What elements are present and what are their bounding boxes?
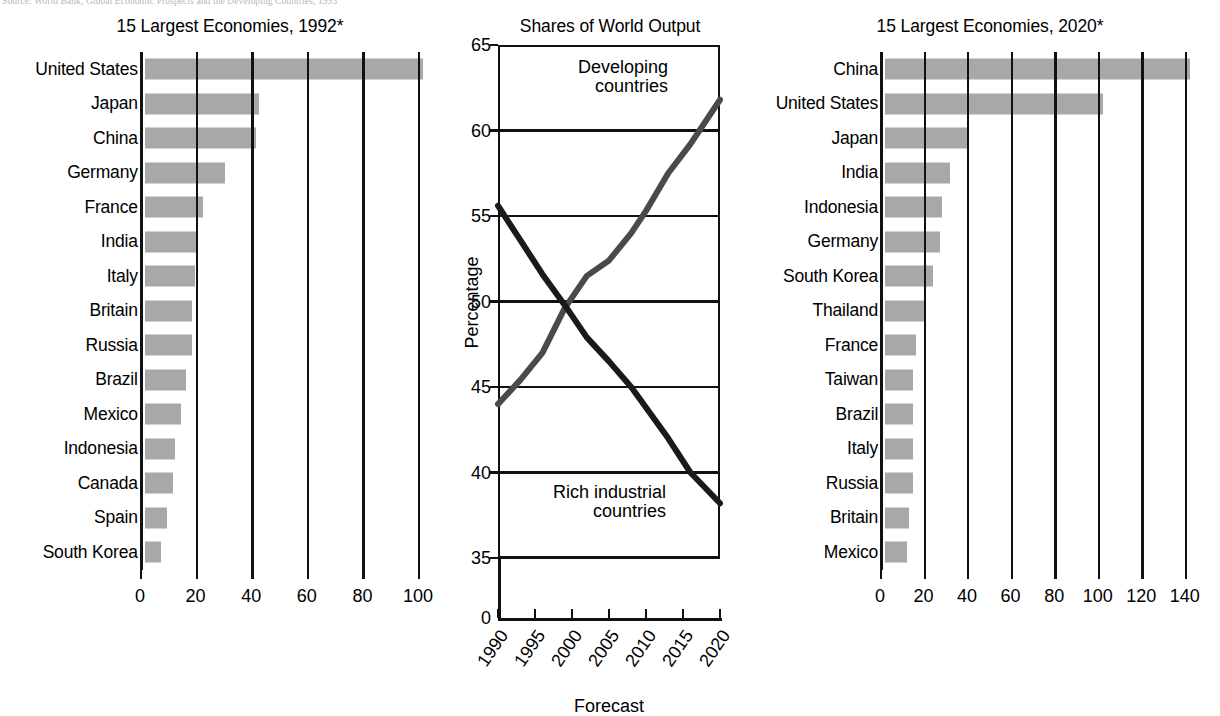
x-tick-label: 20	[914, 586, 934, 607]
y-tick-mark	[490, 129, 498, 131]
bar-row[interactable]: France	[0, 190, 432, 225]
bar-track	[885, 363, 1200, 398]
annotation-line-2: countries	[538, 77, 668, 96]
bar-row[interactable]: Japan	[760, 121, 1200, 156]
annotation-developing-countries: Developingcountries	[538, 58, 668, 97]
bar-row[interactable]: Germany	[760, 225, 1200, 260]
y-tick-mark	[490, 471, 498, 473]
x-tick-label: 100	[403, 586, 433, 607]
bar-row[interactable]: Indonesia	[760, 190, 1200, 225]
bar-fill	[145, 300, 192, 321]
x-gridline	[880, 52, 883, 570]
bar-row[interactable]: China	[760, 52, 1200, 87]
bar-track	[885, 225, 1200, 260]
bar-category-label: China	[760, 61, 885, 79]
bar-row[interactable]: United States	[760, 87, 1200, 122]
y-gridline	[498, 215, 720, 217]
bar-row[interactable]: Italy	[0, 259, 432, 294]
middle-line-chart: 656055504540350Percentage199019952000200…	[460, 0, 760, 683]
bar-category-label: South Korea	[0, 544, 145, 562]
bar-fill	[145, 93, 259, 114]
bar-category-label: Canada	[0, 475, 145, 493]
x-tick-mark	[967, 570, 969, 579]
x-gridline	[1185, 52, 1187, 570]
x-gridline	[924, 52, 926, 570]
y-gridline	[498, 386, 720, 388]
bar-row[interactable]: China	[0, 121, 432, 156]
bar-row[interactable]: South Korea	[760, 259, 1200, 294]
bar-row[interactable]: Britain	[760, 501, 1200, 536]
bar-category-label: Britain	[0, 302, 145, 320]
annotation-rich-industrial-countries: Rich industrialcountries	[516, 483, 666, 522]
x-tick-mark	[497, 609, 500, 618]
bar-track	[885, 190, 1200, 225]
bar-row[interactable]: India	[760, 156, 1200, 191]
bar-fill	[145, 197, 203, 218]
x-gridline	[1054, 52, 1056, 570]
bar-row[interactable]: Spain	[0, 501, 432, 536]
bar-row[interactable]: Canada	[0, 466, 432, 501]
bar-category-label: France	[760, 337, 885, 355]
x-gridline	[362, 52, 364, 570]
x-tick-label: 0	[135, 586, 145, 607]
bar-row[interactable]: Brazil	[0, 363, 432, 398]
bar-row[interactable]: Germany	[0, 156, 432, 191]
bar-track	[885, 466, 1200, 501]
y-tick-mark	[490, 215, 498, 217]
bar-fill	[885, 438, 913, 459]
bar-fill	[145, 438, 176, 459]
bar-fill	[145, 473, 173, 494]
bar-category-label: Russia	[0, 337, 145, 355]
bar-row[interactable]: Indonesia	[0, 432, 432, 467]
bar-row[interactable]: India	[0, 225, 432, 260]
y-gridline	[498, 300, 720, 302]
bar-fill	[145, 59, 423, 80]
y-gridline	[498, 129, 720, 131]
x-gridline	[1141, 52, 1143, 570]
x-axis-line	[498, 618, 722, 621]
right-bar-chart: ChinaUnited StatesJapanIndiaIndonesiaGer…	[760, 52, 1220, 562]
bar-track	[885, 501, 1200, 536]
bar-track	[145, 259, 432, 294]
bar-row[interactable]: Thailand	[760, 294, 1200, 329]
x-tick-label: 20	[186, 586, 206, 607]
x-gridline	[418, 52, 420, 570]
bar-track	[145, 432, 432, 467]
bar-track	[145, 52, 432, 87]
bar-category-label: United States	[0, 61, 145, 79]
bar-category-label: Mexico	[0, 406, 145, 424]
x-tick-mark	[1098, 570, 1100, 579]
bar-row[interactable]: Japan	[0, 87, 432, 122]
bar-track	[145, 294, 432, 329]
x-tick-mark	[1141, 570, 1143, 579]
bar-row[interactable]: Brazil	[760, 397, 1200, 432]
y-tick-label: 60	[471, 120, 491, 141]
bar-row[interactable]: Russia	[760, 466, 1200, 501]
y-gridline	[498, 471, 720, 473]
left-chart-title: 15 Largest Economies, 1992*	[0, 16, 460, 37]
bar-fill	[885, 404, 913, 425]
bar-row[interactable]: Britain	[0, 294, 432, 329]
bar-track	[145, 225, 432, 260]
y-gridline	[498, 557, 720, 559]
bar-row[interactable]: Taiwan	[760, 363, 1200, 398]
bar-row[interactable]: Russia	[0, 328, 432, 363]
bar-row[interactable]: South Korea	[0, 535, 432, 570]
x-tick-label: 40	[241, 586, 261, 607]
bar-category-label: Japan	[0, 95, 145, 113]
x-tick-mark	[196, 570, 198, 579]
bar-category-label: India	[0, 233, 145, 251]
bar-track	[885, 432, 1200, 467]
bar-row[interactable]: Mexico	[760, 535, 1200, 570]
bar-track	[145, 501, 432, 536]
bar-row[interactable]: France	[760, 328, 1200, 363]
bar-category-label: Thailand	[760, 302, 885, 320]
bar-row[interactable]: Italy	[760, 432, 1200, 467]
y-tick-label: 55	[471, 206, 491, 227]
bar-category-label: Taiwan	[760, 371, 885, 389]
bar-row[interactable]: United States	[0, 52, 432, 87]
x-tick-mark	[251, 570, 253, 579]
bar-row[interactable]: Mexico	[0, 397, 432, 432]
bar-track	[885, 52, 1200, 87]
x-tick-mark	[719, 609, 722, 618]
